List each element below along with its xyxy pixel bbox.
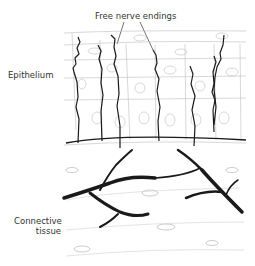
connective-cells <box>66 168 244 257</box>
nerve-diagram <box>0 0 255 266</box>
epithelium-cells <box>64 31 246 145</box>
